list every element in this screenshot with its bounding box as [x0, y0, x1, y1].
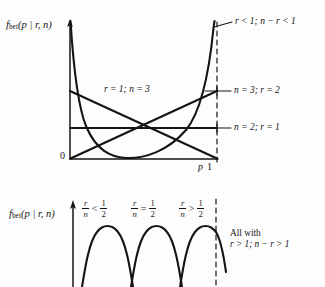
frac-num: 1	[100, 199, 107, 208]
annotation-all-with: All with r > 1; n − r > 1	[230, 228, 289, 251]
fraction-group-left: r n < 1 2	[81, 199, 108, 218]
annotation-n2-r1: n = 2; r = 1	[234, 123, 280, 133]
y-label-subscript-2: bet	[12, 212, 21, 220]
frac-den: n	[82, 208, 89, 218]
fraction-one-half-right: 1 2	[197, 199, 204, 218]
y-label-subscript: bet	[9, 23, 18, 31]
frac-den: n	[179, 208, 186, 218]
curve-bell-middle	[131, 226, 182, 287]
fraction-group-right: r n > 1 2	[178, 199, 205, 218]
all-with-line-1: All with	[230, 228, 261, 238]
frac-den: 2	[197, 208, 204, 218]
annotation-n3-r2: n = 3; r = 2	[234, 86, 280, 96]
fraction-one-half-left: 1 2	[100, 199, 107, 218]
annotation-r-lt-1: r < 1; n − r < 1	[235, 17, 296, 27]
y-label-args-2: (p | r, n)	[21, 208, 55, 219]
bottom-panel-y-axis-label: fbet(p | r, n)	[9, 209, 55, 220]
curve-bell-right	[180, 226, 226, 287]
x-tick-one: 1	[207, 161, 212, 172]
frac-num: r	[179, 199, 185, 208]
frac-num: r	[131, 199, 137, 208]
frac-num: r	[82, 199, 88, 208]
relational-operator-middle: =	[141, 203, 147, 214]
fraction-r-over-n-left: r n	[82, 199, 89, 218]
fraction-group-middle: r n = 1 2	[130, 199, 157, 218]
frac-den: 2	[100, 208, 107, 218]
fraction-one-half-middle: 1 2	[149, 199, 156, 218]
fraction-r-over-n-right: r n	[179, 199, 186, 218]
top-panel-x-tick-p1: p1	[198, 162, 212, 172]
y-label-args: (p | r, n)	[18, 19, 52, 30]
annotation-r1-n3: r = 1; n = 3	[104, 85, 150, 95]
frac-den: n	[131, 208, 138, 218]
frac-num: 1	[149, 199, 156, 208]
all-with-line-2: r > 1; n − r > 1	[230, 239, 289, 249]
bottom-panel-y-axis	[70, 200, 76, 287]
frac-den: 2	[149, 208, 156, 218]
figure-root: fbet(p | r, n) r < 1; n − r < 1 r = 1; n…	[0, 0, 325, 287]
x-tick-p: p	[198, 161, 203, 172]
top-panel-y-axis-label: fbet(p | r, n)	[6, 20, 52, 31]
frac-num: 1	[197, 199, 204, 208]
curve-bell-left	[82, 226, 133, 287]
relational-operator-left: <	[92, 203, 98, 214]
fraction-r-over-n-middle: r n	[131, 199, 138, 218]
relational-operator-right: >	[189, 203, 195, 214]
top-panel-origin-tick: 0	[60, 151, 65, 161]
